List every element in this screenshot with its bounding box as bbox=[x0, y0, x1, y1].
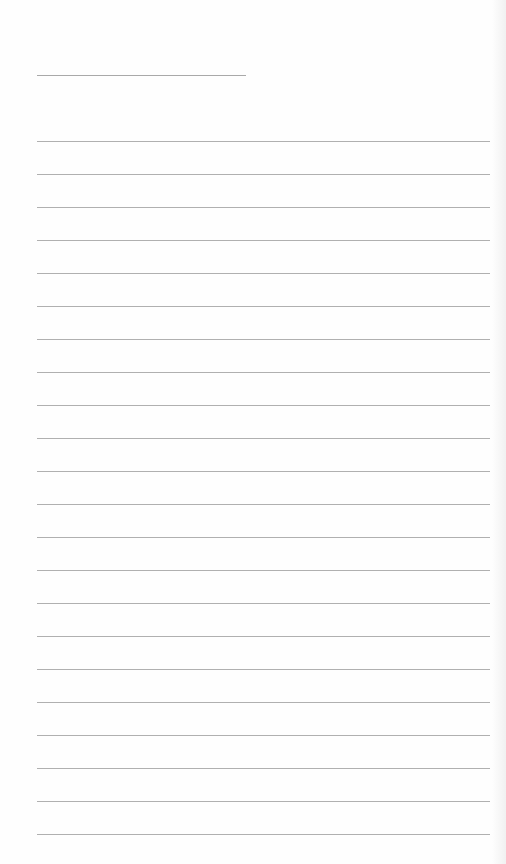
ruled-line bbox=[37, 372, 490, 373]
ruled-line bbox=[37, 339, 490, 340]
ruled-line bbox=[37, 735, 490, 736]
ruled-line bbox=[37, 834, 490, 835]
ruled-line bbox=[37, 141, 490, 142]
ruled-line bbox=[37, 207, 490, 208]
ruled-line bbox=[37, 438, 490, 439]
ruled-line bbox=[37, 306, 490, 307]
ruled-line bbox=[37, 504, 490, 505]
ruled-line bbox=[37, 603, 490, 604]
header-name-line bbox=[37, 75, 246, 76]
page-edge-shadow bbox=[492, 0, 506, 864]
ruled-line bbox=[37, 570, 490, 571]
ruled-line bbox=[37, 702, 490, 703]
ruled-line bbox=[37, 174, 490, 175]
ruled-line bbox=[37, 471, 490, 472]
ruled-line bbox=[37, 240, 490, 241]
ruled-line bbox=[37, 636, 490, 637]
ruled-line bbox=[37, 405, 490, 406]
ruled-line bbox=[37, 801, 490, 802]
ruled-line bbox=[37, 768, 490, 769]
ruled-line bbox=[37, 273, 490, 274]
ruled-line bbox=[37, 669, 490, 670]
ruled-line bbox=[37, 537, 490, 538]
